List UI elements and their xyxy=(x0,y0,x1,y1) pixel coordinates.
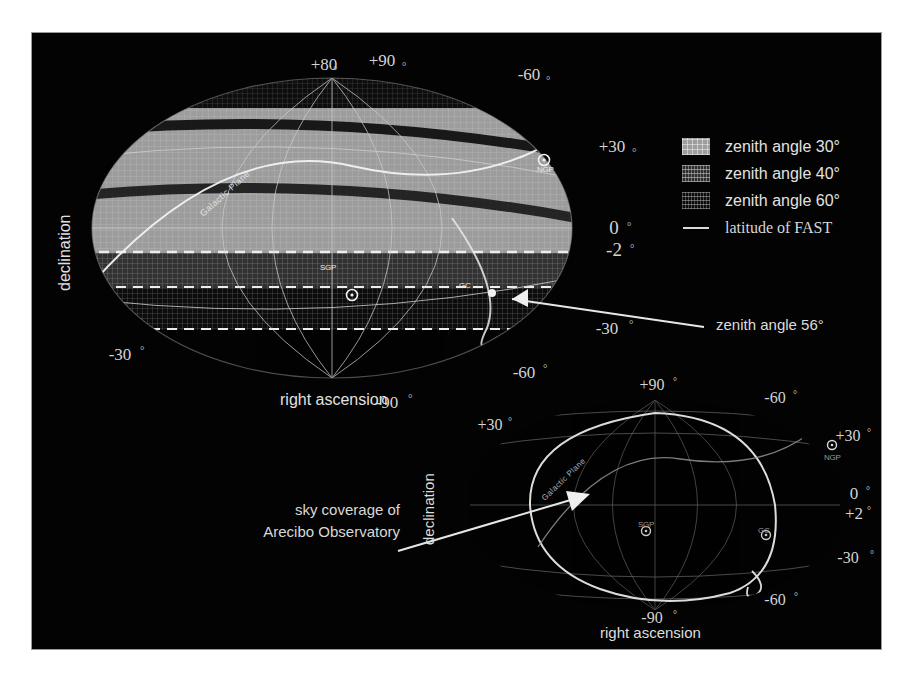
inset-dec-tick-m30: -30 xyxy=(837,549,858,566)
deg-sign-c: ° xyxy=(546,74,550,86)
legend-item-fast-latitude: latitude of FAST xyxy=(682,214,840,241)
zenith-40-swatch xyxy=(682,165,710,182)
deg-n: ° xyxy=(867,427,871,438)
deg-sign-f: ° xyxy=(630,242,634,254)
legend-label-zenith-40: zenith angle 40° xyxy=(725,165,840,183)
zenith-60-swatch xyxy=(682,192,710,209)
main-marker-label-ngp: NGP xyxy=(537,165,553,174)
arecibo-annotation-label: sky coverage of Arecibo Observatory xyxy=(180,499,400,543)
deg-k: ° xyxy=(673,376,677,387)
main-map-ra-axis-title: right ascension xyxy=(280,391,388,409)
main-marker-label-gc: GC xyxy=(459,281,470,290)
zenith56-annotation-label: zenith angle 56° xyxy=(716,316,824,333)
main-ra-tick-top-90: +90 xyxy=(369,51,396,70)
zenith-30-swatch xyxy=(682,138,710,155)
deg-sign-g: ° xyxy=(408,392,412,404)
deg-sign-e: ° xyxy=(627,220,631,232)
inset-marker-label-gc: GC xyxy=(758,526,769,535)
main-sky-map: +80 +90 -60 ° ° ° +30 ° 0 ° -2 ° -90 ° -… xyxy=(52,38,652,418)
figure-root: +80 +90 -60 ° ° ° +30 ° 0 ° -2 ° -90 ° -… xyxy=(0,0,909,679)
inset-dec-tick-p2: +2 xyxy=(845,504,863,523)
main-dec-tick-m2: -2 xyxy=(606,239,622,260)
inset-map-ra-axis-title: right ascension xyxy=(600,624,701,641)
legend-item-zenith-60: zenith angle 60° xyxy=(682,187,840,214)
deg-s: ° xyxy=(673,609,677,620)
main-dec-tick-0: 0 xyxy=(609,217,619,238)
inset-dec-tick-p30: +30 xyxy=(835,427,860,444)
main-ra-tick-top-m60: -60 xyxy=(518,65,541,84)
arecibo-annotation-line2: Arecibo Observatory xyxy=(180,521,400,543)
deg-q: ° xyxy=(870,549,874,560)
deg-m: ° xyxy=(508,416,512,427)
main-marker-label-sgp: SGP xyxy=(320,263,336,272)
deg-sign-b: ° xyxy=(402,60,406,72)
legend-label-zenith-30: zenith angle 30° xyxy=(725,138,840,156)
inset-ra-tick-top-m60: -60 xyxy=(764,389,785,406)
main-map-dec-axis-title: declination xyxy=(56,215,74,292)
figure-panel: +80 +90 -60 ° ° ° +30 ° 0 ° -2 ° -90 ° -… xyxy=(32,33,881,649)
deg-p: ° xyxy=(867,505,871,516)
arecibo-annotation-line1: sky coverage of xyxy=(180,499,400,521)
legend: zenith angle 30° zenith angle 40° zenith… xyxy=(682,133,840,241)
deg-sign-a: ° xyxy=(333,64,337,76)
legend-label-zenith-60: zenith angle 60° xyxy=(725,192,840,210)
inset-marker-label-ngp: NGP xyxy=(824,453,840,462)
main-dec-tick-left-m30: -30 xyxy=(109,345,132,364)
fast-latitude-line-swatch xyxy=(682,219,710,236)
deg-l: ° xyxy=(793,389,797,400)
legend-item-zenith-40: zenith angle 40° xyxy=(682,160,840,187)
legend-item-zenith-30: zenith angle 30° xyxy=(682,133,840,160)
deg-sign-d: ° xyxy=(632,146,636,158)
inset-dec-tick-left-p30: +30 xyxy=(477,416,502,433)
legend-label-fast-latitude: latitude of FAST xyxy=(725,219,832,237)
deg-sign-h: ° xyxy=(543,362,547,374)
arecibo-leader-line xyxy=(394,469,654,559)
zenith56-leader-line xyxy=(472,279,712,339)
main-dec-tick-p30: +30 xyxy=(599,137,626,156)
deg-o: ° xyxy=(866,485,870,496)
deg-r: ° xyxy=(794,591,798,602)
deg-sign-j: ° xyxy=(140,344,144,356)
inset-dec-tick-0: 0 xyxy=(850,484,859,503)
inset-ra-tick-top-p90: +90 xyxy=(639,376,664,393)
inset-ra-tick-bot-m60: -60 xyxy=(764,591,785,608)
